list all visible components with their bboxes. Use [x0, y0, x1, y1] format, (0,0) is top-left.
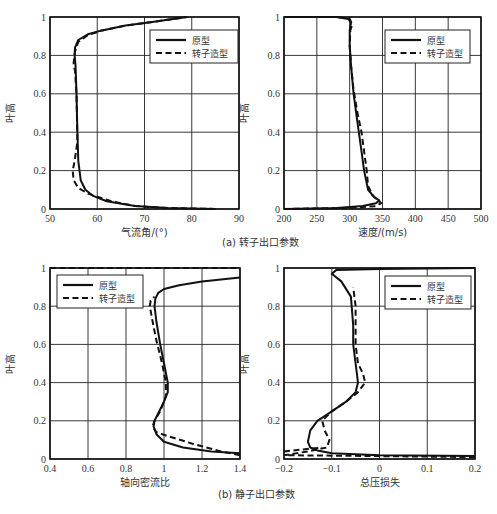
- series-line: [284, 17, 379, 209]
- series-line: [150, 297, 240, 456]
- x-axis-label: 总压损失: [360, 476, 400, 488]
- legend-label-solid: 原型: [99, 281, 117, 291]
- y-tick-label: 0.2: [268, 415, 281, 426]
- x-tick-label: 0: [377, 463, 382, 474]
- legend-label-solid: 原型: [192, 36, 210, 46]
- x-axis-label: 气流角/(°): [121, 226, 167, 238]
- caption-b: (b) 静子出口参数: [218, 486, 295, 501]
- y-tick-label: 0.2: [268, 165, 281, 176]
- y-tick-label: 0.4: [268, 127, 281, 138]
- x-tick-label: 0.4: [44, 463, 57, 474]
- x-tick-label: 1.4: [234, 463, 247, 474]
- y-axis-label: 叶高: [238, 103, 250, 123]
- x-tick-label: −0.1: [323, 463, 341, 474]
- y-tick-label: 0.8: [268, 50, 281, 61]
- legend-label-dashed: 转子造型: [427, 48, 463, 59]
- chart-a_left: 506070809000.20.40.60.81气流角/(°)叶高原型转子造型: [4, 12, 244, 239]
- x-tick-label: 450: [441, 213, 456, 224]
- y-axis-label: 叶高: [238, 354, 250, 374]
- x-tick-label: 200: [277, 213, 292, 224]
- legend-label-solid: 原型: [427, 282, 445, 292]
- y-tick-label: 0.4: [34, 377, 47, 388]
- y-tick-label: 0.2: [34, 165, 47, 176]
- x-axis-label: 轴向密流比: [120, 476, 170, 488]
- x-tick-label: 0.2: [469, 463, 482, 474]
- y-axis-label: 叶高: [4, 354, 16, 374]
- y-tick-label: 0.6: [34, 88, 47, 99]
- y-tick-label: 1: [275, 12, 280, 23]
- y-tick-label: 0.2: [34, 415, 47, 426]
- caption-a: (a) 转子出口参数: [222, 234, 299, 249]
- x-tick-label: −0.2: [275, 463, 293, 474]
- x-tick-label: 50: [45, 213, 55, 224]
- legend-label-dashed: 转子造型: [192, 48, 228, 59]
- x-tick-label: 250: [309, 213, 324, 224]
- x-tick-label: 0.6: [82, 463, 95, 474]
- x-axis-label: 速度/(m/s): [358, 226, 408, 238]
- legend-label-dashed: 转子造型: [99, 293, 135, 304]
- y-tick-label: 1: [41, 263, 46, 274]
- y-tick-label: 0: [41, 454, 46, 465]
- series-line: [284, 17, 381, 209]
- legend-label-solid: 原型: [427, 36, 445, 46]
- y-tick-label: 0.8: [268, 301, 281, 312]
- y-tick-label: 0.8: [34, 301, 47, 312]
- chart-b_right: −0.2−0.100.10.200.20.40.60.81总压损失叶高原型转子造…: [238, 263, 481, 489]
- x-tick-label: 350: [375, 213, 390, 224]
- x-tick-label: 300: [342, 213, 357, 224]
- y-tick-label: 0.8: [34, 50, 47, 61]
- y-tick-label: 0.6: [268, 88, 281, 99]
- x-tick-label: 80: [187, 213, 197, 224]
- series-line: [154, 278, 240, 454]
- y-tick-label: 0: [41, 204, 46, 215]
- y-tick-label: 0: [275, 454, 280, 465]
- y-axis-label: 叶高: [4, 103, 16, 123]
- x-tick-label: 60: [92, 213, 102, 224]
- y-tick-label: 0.6: [268, 339, 281, 350]
- x-tick-label: 0.8: [120, 463, 133, 474]
- y-tick-label: 0: [275, 204, 280, 215]
- y-tick-label: 1: [41, 12, 46, 23]
- y-tick-label: 0.6: [34, 339, 47, 350]
- figure-canvas: 506070809000.20.40.60.81气流角/(°)叶高原型转子造型2…: [0, 0, 497, 514]
- y-tick-label: 0.4: [34, 127, 47, 138]
- chart-a_right: 20025030035040045050000.20.40.60.81速度/(m…: [238, 12, 489, 239]
- y-tick-label: 1: [275, 263, 280, 274]
- x-tick-label: 400: [408, 213, 423, 224]
- x-tick-label: 1.2: [196, 463, 209, 474]
- y-tick-label: 0.4: [268, 377, 281, 388]
- x-tick-label: 0.1: [421, 463, 434, 474]
- chart-b_left: 0.40.60.811.21.400.20.40.60.81轴向密流比叶高原型转…: [4, 263, 246, 489]
- x-tick-label: 70: [140, 213, 150, 224]
- x-tick-label: 1: [162, 463, 167, 474]
- x-tick-label: 90: [234, 213, 244, 224]
- legend-label-dashed: 转子造型: [427, 294, 463, 305]
- x-tick-label: 500: [474, 213, 489, 224]
